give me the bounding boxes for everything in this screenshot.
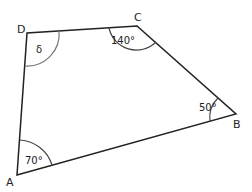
angle-label-C: 140° <box>111 35 135 46</box>
vertex-label-B: B <box>233 118 241 131</box>
quadrilateral-diagram: A B C D 70° 50° 140° δ <box>0 0 252 192</box>
vertex-label-C: C <box>134 11 142 24</box>
vertex-label-D: D <box>17 23 25 36</box>
angle-label-D: δ <box>36 44 42 55</box>
angle-label-A: 70° <box>25 155 43 166</box>
angle-label-B: 50° <box>199 102 217 113</box>
vertex-label-A: A <box>6 176 14 189</box>
